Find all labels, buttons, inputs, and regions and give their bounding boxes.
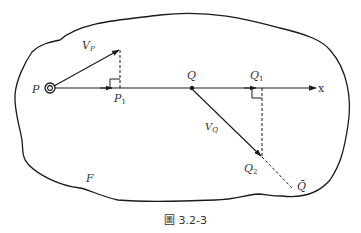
body-outline — [15, 13, 350, 201]
vector-vp — [54, 50, 119, 86]
label-q: Q — [187, 69, 196, 82]
label-p: P — [31, 83, 40, 96]
label-vp: VP — [82, 39, 95, 53]
label-q2: Q2 — [244, 162, 258, 176]
extension-qbar-dashed — [262, 157, 292, 188]
diagram-canvas: x P VP P1 Q Q1 VQ Q2 Q̄ F 圖 3.2-3 — [0, 0, 361, 233]
label-qbar: Q̄ — [297, 180, 306, 193]
figure-caption: 圖 3.2-3 — [164, 214, 207, 227]
x-axis-label: x — [318, 82, 325, 95]
point-p-inner — [48, 86, 53, 91]
label-vq: VQ — [205, 121, 218, 134]
right-angle-q1 — [252, 88, 262, 98]
label-q1: Q1 — [250, 69, 264, 83]
right-angle-p1 — [110, 79, 120, 88]
vector-vq — [193, 90, 261, 156]
label-p1: P1 — [113, 92, 126, 106]
label-region-f: F — [85, 172, 94, 185]
point-q — [190, 86, 194, 90]
